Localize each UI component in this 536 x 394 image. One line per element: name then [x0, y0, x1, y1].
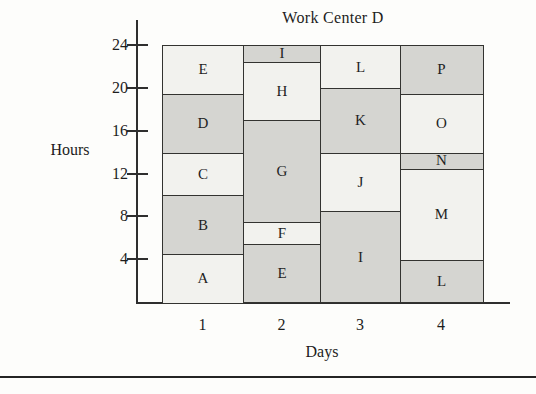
schedule-block-A-day1: A [162, 254, 245, 304]
y-tick-label-12: 12 [88, 165, 128, 183]
schedule-block-J-day3: J [320, 152, 402, 212]
schedule-block-M-day4: M [400, 168, 484, 261]
schedule-block-L-day4: L [400, 259, 484, 303]
schedule-block-G-day2: G [243, 120, 322, 223]
x-tick-label-1: 1 [183, 316, 223, 334]
y-tick-label-4: 4 [88, 250, 128, 268]
schedule-block-I-day3: I [320, 211, 402, 304]
y-axis-line [136, 20, 138, 304]
schedule-block-B-day1: B [162, 195, 245, 255]
y-tick-label-16: 16 [88, 122, 128, 140]
x-tick-label-2: 2 [262, 316, 302, 334]
schedule-block-P-day4: P [400, 45, 484, 95]
y-tick-16 [127, 130, 148, 132]
schedule-block-E-day2: E [243, 243, 322, 303]
y-axis-label: Hours [28, 141, 112, 159]
schedule-block-K-day3: K [320, 88, 402, 154]
x-axis-label: Days [272, 343, 372, 361]
chart-title: Work Center D [173, 9, 493, 27]
schedule-block-D-day1: D [162, 93, 245, 153]
y-tick-12 [127, 173, 148, 175]
bottom-rule-divider [0, 376, 536, 378]
schedule-block-L-day3: L [320, 45, 402, 89]
y-tick-label-24: 24 [88, 36, 128, 54]
schedule-block-H-day2: H [243, 61, 322, 121]
figure-canvas: Work Center D Hours 2420161284ABCDE1EFGH… [0, 0, 536, 394]
y-tick-4 [127, 258, 148, 260]
y-tick-label-20: 20 [88, 79, 128, 97]
schedule-block-C-day1: C [162, 152, 245, 196]
x-tick-label-3: 3 [340, 316, 380, 334]
schedule-block-O-day4: O [400, 93, 484, 153]
schedule-block-I-day2: I [243, 45, 322, 63]
y-tick-label-8: 8 [88, 207, 128, 225]
y-tick-24 [127, 44, 148, 46]
x-tick-label-4: 4 [421, 316, 461, 334]
y-tick-20 [127, 87, 148, 89]
y-tick-8 [127, 215, 148, 217]
schedule-block-E-day1: E [162, 45, 245, 95]
schedule-block-F-day2: F [243, 222, 322, 245]
schedule-block-N-day4: N [400, 152, 484, 170]
